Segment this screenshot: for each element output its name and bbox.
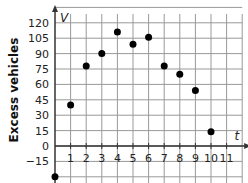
data-point — [161, 62, 168, 69]
x-tick-label: 7 — [161, 152, 168, 165]
x-tick-label: 4 — [114, 152, 121, 165]
y-axis-arrow-icon — [52, 5, 58, 12]
y-tick-label: 120 — [28, 17, 49, 30]
y-tick-label: 45 — [35, 94, 49, 107]
data-point — [98, 50, 105, 57]
x-tick-label: 8 — [176, 152, 183, 165]
data-point — [114, 29, 121, 36]
data-point — [52, 173, 59, 180]
y-tick-label: 60 — [35, 78, 49, 91]
y-axis-label: Excess vehicles — [7, 38, 21, 143]
x-tick-label: 2 — [83, 152, 90, 165]
y-tick-label: 15 — [35, 125, 49, 138]
x-axis-arrow-icon — [244, 143, 248, 149]
x-tick-label: 3 — [98, 152, 105, 165]
y-axis-name: V — [60, 11, 69, 25]
data-point — [176, 71, 183, 78]
data-point — [145, 34, 152, 41]
data-point — [192, 87, 199, 94]
data-point — [83, 62, 90, 69]
x-tick-label: 6 — [145, 152, 152, 165]
data-point — [67, 101, 74, 108]
data-point — [130, 41, 137, 48]
x-tick-label: 1 — [67, 152, 74, 165]
x-tick-label: 5 — [130, 152, 137, 165]
y-tick-label: 75 — [35, 63, 49, 76]
y-tick-label: 105 — [28, 32, 49, 45]
y-tick-label: 90 — [35, 48, 49, 61]
y-tick-label: −15 — [26, 155, 49, 168]
x-tick-label: 9 — [192, 152, 199, 165]
y-tick-label: 0 — [42, 140, 49, 153]
x-tick-label: 11 — [220, 152, 234, 165]
x-tick-label: 10 — [204, 152, 218, 165]
scatter-chart: 1201059075604530150−151234567891011VtExc… — [0, 0, 248, 183]
data-point — [208, 128, 215, 135]
y-tick-label: 30 — [35, 109, 49, 122]
